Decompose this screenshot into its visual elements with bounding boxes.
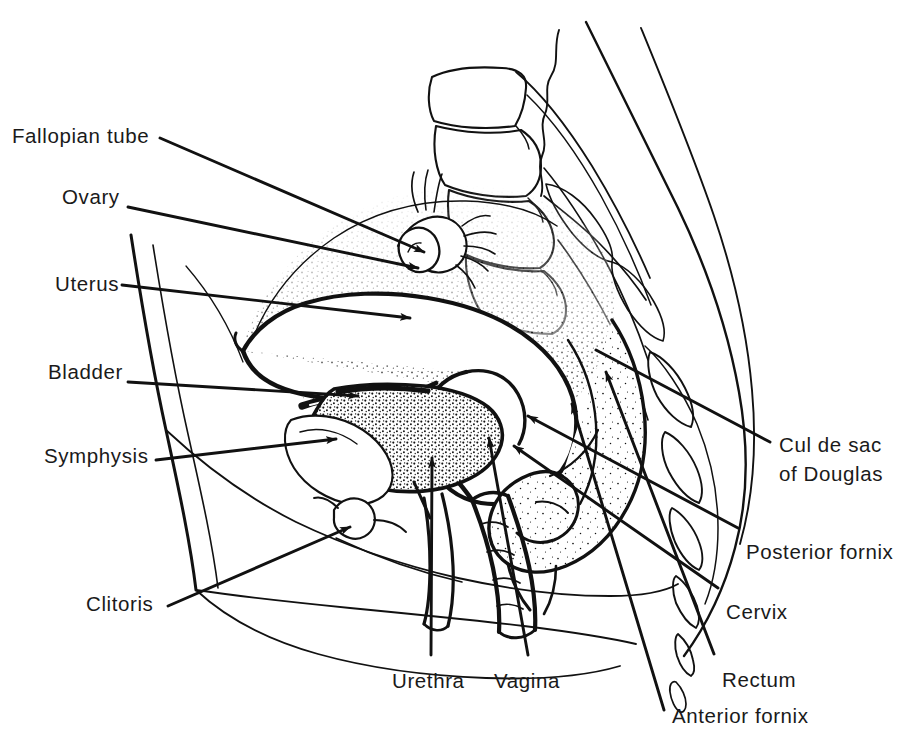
label-cul-de-sac-line1: Cul de sac xyxy=(779,430,883,459)
leader-clitoris xyxy=(168,527,350,606)
label-vagina: Vagina xyxy=(494,669,560,693)
label-cervix: Cervix xyxy=(726,600,788,624)
anatomy-figure: Fallopian tube Ovary Uterus Bladder Symp… xyxy=(0,0,897,750)
label-urethra: Urethra xyxy=(392,669,465,693)
label-uterus: Uterus xyxy=(55,272,119,296)
anatomy-diagram-svg xyxy=(0,0,897,750)
label-rectum: Rectum xyxy=(722,668,796,692)
label-posterior-fornix: Posterior fornix xyxy=(746,540,893,564)
label-cul-de-sac-line2: of Douglas xyxy=(779,459,883,488)
label-ovary: Ovary xyxy=(62,185,120,209)
label-fallopian-tube: Fallopian tube xyxy=(12,124,149,148)
leader-fallopian-tube xyxy=(160,138,424,252)
label-cul-de-sac: Cul de sac of Douglas xyxy=(779,430,883,488)
label-symphysis: Symphysis xyxy=(44,444,149,468)
sacrum xyxy=(645,346,718,712)
clitoris-body xyxy=(314,497,406,538)
label-clitoris: Clitoris xyxy=(86,592,153,616)
leader-urethra xyxy=(431,458,432,655)
label-bladder: Bladder xyxy=(48,360,123,384)
label-anterior-fornix: Anterior fornix xyxy=(672,704,809,728)
